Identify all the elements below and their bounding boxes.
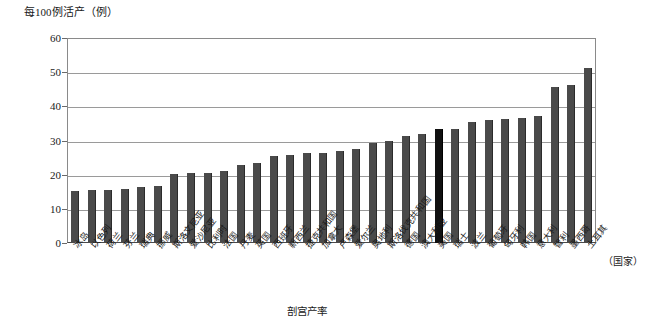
bar	[270, 156, 278, 243]
bar	[584, 68, 592, 243]
y-tick-label: 30	[21, 136, 61, 147]
x-axis-unit-label: （国家）	[603, 256, 643, 268]
bar	[468, 122, 476, 243]
y-tick-label: 40	[21, 101, 61, 112]
bar	[551, 87, 559, 243]
y-tick-label: 20	[21, 170, 61, 181]
bar	[567, 85, 575, 243]
x-axis-title: 剖宫产率	[287, 306, 327, 318]
y-tick-label: 50	[21, 67, 61, 78]
bar	[253, 163, 261, 243]
bar	[237, 165, 245, 243]
bar	[418, 134, 426, 243]
x-axis-labels: 冰岛以色列荷兰芬兰瑞典挪威斯洛文尼亚爱沙尼亚比利时法国丹麦英国西班牙新西兰捷克共…	[67, 244, 596, 330]
bar	[534, 116, 542, 243]
y-tick-label: 10	[21, 204, 61, 215]
bar	[451, 129, 459, 243]
bar	[485, 120, 493, 243]
cesarean-rate-bar-chart: 每100例活产（例） 0102030405060 冰岛以色列荷兰芬兰瑞典挪威斯洛…	[0, 0, 661, 334]
bar	[170, 174, 178, 243]
y-tick-label: 0	[21, 238, 61, 249]
y-axis-title: 每100例活产（例）	[24, 6, 118, 19]
y-tick-label: 60	[21, 33, 61, 44]
